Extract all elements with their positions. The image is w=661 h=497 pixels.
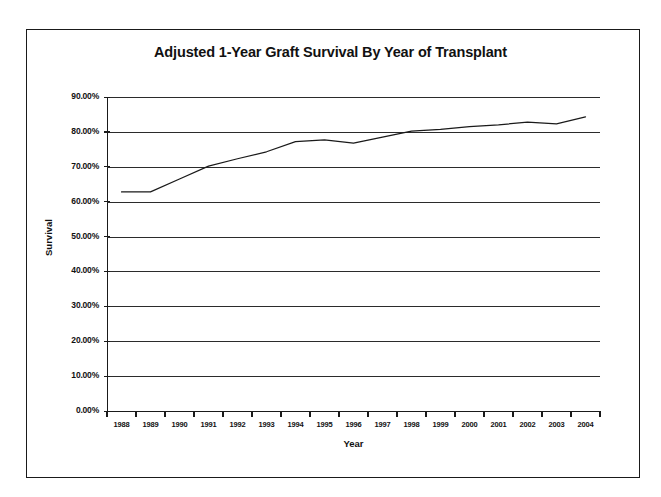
y-axis-tick-label: 90.00% [71, 91, 99, 101]
x-axis-tick-label: 2001 [491, 420, 507, 429]
gridline [107, 341, 600, 342]
x-axis-tick [483, 411, 484, 417]
y-axis-tick-label: 0.00% [76, 405, 99, 415]
y-axis-tick-label: 50.00% [71, 231, 99, 241]
x-axis-tick-label: 1996 [346, 420, 362, 429]
y-axis-tick [104, 271, 110, 272]
y-axis-title: Survival [43, 208, 54, 268]
gridline [107, 376, 600, 377]
y-axis-tick [104, 97, 110, 98]
x-axis-line [107, 411, 601, 412]
x-axis-tick-label: 1989 [143, 420, 159, 429]
y-axis-tick [104, 306, 110, 307]
y-axis-tick-label: 20.00% [71, 335, 99, 345]
y-axis-tick-label: 80.00% [71, 126, 99, 136]
x-axis-tick [512, 411, 513, 417]
gridline [107, 132, 600, 133]
y-axis-tick [104, 166, 110, 167]
x-axis-tick-label: 1988 [114, 420, 130, 429]
x-axis-title: Year [107, 438, 600, 449]
y-axis-tick [104, 201, 110, 202]
x-axis-tick [222, 411, 223, 417]
x-axis-tick [425, 411, 426, 417]
x-axis-tick-label: 1999 [433, 420, 449, 429]
y-axis-tick-label: 40.00% [71, 265, 99, 275]
x-axis-tick-label: 1995 [317, 420, 333, 429]
x-axis-tick-label: 2002 [520, 420, 536, 429]
x-axis-tick [164, 411, 165, 417]
x-axis-tick [193, 411, 194, 417]
x-axis-tick-label: 1990 [172, 420, 188, 429]
gridline [107, 271, 600, 272]
x-axis-tick [396, 411, 397, 417]
x-axis-tick [541, 411, 542, 417]
y-axis-tick-label: 70.00% [71, 161, 99, 171]
gridline [107, 167, 600, 168]
x-axis-tick [599, 411, 600, 417]
y-axis-tick [104, 376, 110, 377]
x-axis-tick [135, 411, 136, 417]
x-axis-tick [570, 411, 571, 417]
x-axis-tick [309, 411, 310, 417]
gridline [107, 202, 600, 203]
x-axis-tick-label: 1992 [230, 420, 246, 429]
x-axis-tick-label: 1991 [201, 420, 217, 429]
x-axis-tick-label: 1994 [288, 420, 304, 429]
chart-title: Adjusted 1-Year Graft Survival By Year o… [0, 44, 661, 60]
y-axis-tick-label: 30.00% [71, 300, 99, 310]
x-axis-tick-label: 1998 [404, 420, 420, 429]
x-axis-tick-label: 1997 [375, 420, 391, 429]
y-axis-tick [104, 236, 110, 237]
y-axis-tick [104, 341, 110, 342]
y-axis-tick-label: 60.00% [71, 196, 99, 206]
y-axis-tick [104, 131, 110, 132]
gridline [107, 306, 600, 307]
y-axis-tick-label: 10.00% [71, 370, 99, 380]
x-axis-tick [454, 411, 455, 417]
gridline [107, 237, 600, 238]
x-axis-tick [280, 411, 281, 417]
x-axis-tick [251, 411, 252, 417]
x-axis-tick-label: 2000 [462, 420, 478, 429]
x-axis-tick [367, 411, 368, 417]
plot-area [107, 97, 600, 411]
x-axis-tick-label: 1993 [259, 420, 275, 429]
x-axis-tick-label: 2003 [549, 420, 565, 429]
x-axis-tick [106, 411, 107, 417]
x-axis-tick [338, 411, 339, 417]
gridline [107, 97, 600, 98]
chart-figure: Adjusted 1-Year Graft Survival By Year o… [0, 0, 661, 497]
x-axis-tick-label: 2004 [578, 420, 594, 429]
